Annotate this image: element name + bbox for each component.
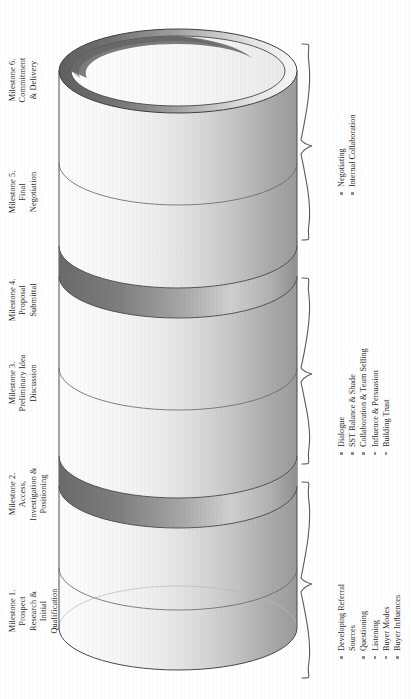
skill-item: Dialogue bbox=[336, 276, 347, 456]
skill-item-text: Questioning bbox=[359, 611, 368, 651]
milestone-label-m6: Milestone 6. Commitment & Delivery bbox=[8, 32, 39, 128]
skill-item-text: Collaboration & Team Selling bbox=[359, 348, 368, 447]
bullet-icon bbox=[362, 656, 365, 659]
skill-item: Buyer Influences bbox=[392, 480, 403, 660]
brace-group-1 bbox=[300, 480, 326, 680]
skill-item: Building Trust bbox=[381, 276, 392, 456]
skill-item-text: Internal Collaboration bbox=[348, 114, 357, 187]
skill-item: Listening bbox=[370, 480, 381, 660]
milestone-label-m3: Milestone 3. Preliminary Idea Discussion bbox=[8, 328, 39, 438]
bullet-icon bbox=[340, 656, 343, 659]
bullet-icon bbox=[385, 656, 388, 659]
skill-item-text: Building Trust bbox=[382, 399, 391, 447]
curly-brace-icon bbox=[300, 276, 326, 466]
milestone-label-line: Milestone 3. bbox=[8, 328, 18, 438]
skill-item-text: Influence & Persuasion bbox=[371, 370, 380, 447]
skill-item-text: Negotiating bbox=[337, 148, 346, 187]
milestone-label-line: Negotiation bbox=[29, 144, 39, 240]
skill-item-text: SST Balance & Shade bbox=[348, 374, 357, 447]
curly-brace-icon bbox=[300, 42, 326, 242]
milestone-label-line: & Delivery bbox=[29, 32, 39, 128]
bullet-icon bbox=[340, 452, 343, 455]
milestone-label-line: Positioning bbox=[39, 440, 49, 548]
milestone-label-line: Milestone 5. bbox=[8, 144, 18, 240]
skill-list-group-3: Negotiating Internal Collaboration bbox=[336, 36, 358, 196]
milestone-label-m1: Milestone 1. Prospect Research & Initial… bbox=[8, 554, 60, 668]
milestone-label-line: Preliminary Idea bbox=[18, 328, 28, 438]
skill-item: Collaboration & Team Selling bbox=[358, 276, 369, 456]
diagram-canvas: Milestone 6. Commitment & Delivery Miles… bbox=[0, 0, 411, 699]
cylinder-body bbox=[59, 71, 297, 670]
bullet-icon bbox=[374, 452, 377, 455]
milestone-label-line: Initial bbox=[39, 554, 49, 668]
milestone-label-line: Milestone 6. bbox=[8, 32, 18, 128]
skill-item-text: Listening bbox=[371, 620, 380, 651]
milestone-label-line: Qualification bbox=[50, 554, 60, 668]
bullet-icon bbox=[362, 452, 365, 455]
bullet-icon bbox=[351, 452, 354, 455]
skill-item: Negotiating bbox=[336, 36, 347, 196]
curly-brace-icon bbox=[300, 480, 326, 680]
skill-item: Developing Referral bbox=[336, 480, 347, 660]
skill-item-text: Buyer Influences bbox=[393, 595, 402, 651]
milestone-label-line: Final bbox=[18, 144, 28, 240]
brace-group-3 bbox=[300, 42, 326, 242]
milestone-label-line: Prospect bbox=[18, 554, 28, 668]
skill-list-group-1: Developing Referral Sources Questioning … bbox=[336, 480, 403, 660]
brace-group-2 bbox=[300, 276, 326, 466]
skill-item: Buyer Modes bbox=[381, 480, 392, 660]
skill-item: Internal Collaboration bbox=[347, 36, 358, 196]
milestone-label-line: Commitment bbox=[18, 32, 28, 128]
milestone-label-line: Discussion bbox=[29, 328, 39, 438]
milestone-label-m5: Milestone 5. Final Negotiation bbox=[8, 144, 39, 240]
skill-item-text: Developing Referral bbox=[337, 584, 346, 651]
milestone-label-line: Research & bbox=[29, 554, 39, 668]
milestone-label-line: Investigation & bbox=[29, 440, 39, 548]
skill-item: Influence & Persuasion bbox=[370, 276, 381, 456]
skill-item: Questioning bbox=[358, 480, 369, 660]
skill-list-group-2: Dialogue SST Balance & Shade Collaborati… bbox=[336, 276, 392, 456]
bullet-icon bbox=[340, 192, 343, 195]
bullet-icon bbox=[351, 192, 354, 195]
skill-item-text: Sources bbox=[348, 625, 357, 651]
bullet-icon bbox=[396, 656, 399, 659]
skill-item-text: Dialogue bbox=[337, 417, 346, 447]
milestone-label-line: Milestone 2. bbox=[8, 440, 18, 548]
bullet-icon bbox=[385, 452, 388, 455]
bullet-icon bbox=[374, 656, 377, 659]
skill-item: SST Balance & Shade bbox=[347, 276, 358, 456]
skill-item-text: Buyer Modes bbox=[382, 607, 391, 651]
milestone-label-line: Access, bbox=[18, 440, 28, 548]
milestone-label-m2: Milestone 2. Access, Investigation & Pos… bbox=[8, 440, 50, 548]
stacked-cylinder-graphic bbox=[47, 8, 309, 696]
milestone-label-line: Milestone 1. bbox=[8, 554, 18, 668]
skill-item-wrap: Sources bbox=[347, 480, 358, 660]
